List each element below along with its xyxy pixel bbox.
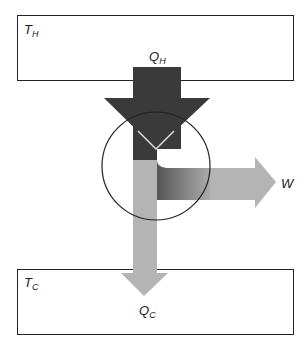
work-arrow [157,150,276,208]
heat-engine-diagram: TH TC QH W QC [0,0,307,345]
work-label: W [281,176,295,191]
